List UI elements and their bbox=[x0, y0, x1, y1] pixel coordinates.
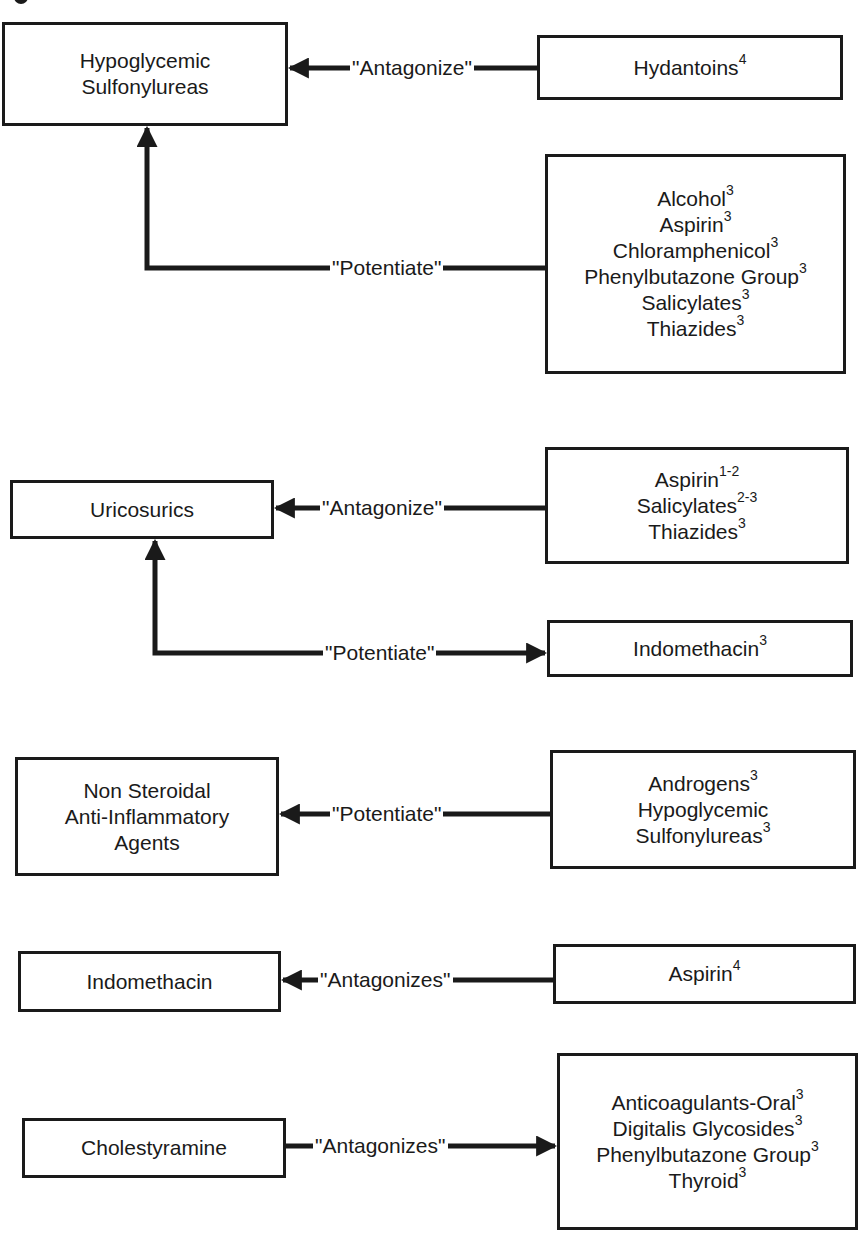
drug-item: Digitalis Glycosides3 bbox=[613, 1116, 803, 1142]
reference-number: 3 bbox=[737, 312, 745, 328]
source-box-aspirin-ref4[interactable]: Aspirin4 bbox=[553, 944, 856, 1004]
source-box-potentiators-nsaids[interactable]: Androgens3 Hypoglycemic Sulfonylureas3 bbox=[550, 750, 856, 869]
relation-label-antagonize: "Antagonize" bbox=[320, 496, 444, 520]
target-label-line: Non Steroidal bbox=[83, 778, 210, 804]
relation-label-potentiate: "Potentiate" bbox=[330, 256, 443, 280]
drug-item: Thyroid3 bbox=[669, 1168, 747, 1194]
target-box-nsaids[interactable]: Non Steroidal Anti-Inflammatory Agents bbox=[15, 757, 279, 876]
arrow-potentiate-1 bbox=[147, 128, 545, 268]
source-box-hydantoins[interactable]: Hydantoins4 bbox=[537, 35, 843, 100]
reference-number: 3 bbox=[796, 1086, 804, 1102]
drug-item: Phenylbutazone Group3 bbox=[584, 264, 807, 290]
reference-number: 4 bbox=[739, 51, 747, 67]
relation-label-potentiate: "Potentiate" bbox=[330, 802, 443, 826]
drug-item: Hypoglycemic bbox=[638, 797, 769, 823]
reference-number: 3 bbox=[726, 182, 734, 198]
relation-label-antagonizes: "Antagonizes" bbox=[318, 968, 453, 992]
source-box-antagonists-uricosurics[interactable]: Aspirin1-2 Salicylates2-3 Thiazides3 bbox=[545, 447, 849, 564]
target-label-line: Uricosurics bbox=[90, 497, 194, 523]
reference-number: 4 bbox=[733, 957, 741, 973]
reference-number: 3 bbox=[770, 234, 778, 250]
reference-number: 3 bbox=[724, 208, 732, 224]
target-label-line: Agents bbox=[114, 830, 179, 856]
drug-item: Aspirin1-2 bbox=[655, 467, 739, 493]
target-box-indomethacin[interactable]: Indomethacin bbox=[18, 951, 281, 1012]
drug-item: Anticoagulants-Oral3 bbox=[611, 1090, 803, 1116]
drug-item: Thiazides3 bbox=[647, 316, 745, 342]
relation-label-antagonizes: "Antagonizes" bbox=[313, 1134, 448, 1158]
drug-item: Alcohol3 bbox=[657, 186, 734, 212]
relation-label-potentiate: "Potentiate" bbox=[323, 641, 436, 665]
drug-item: Sulfonylureas3 bbox=[635, 823, 770, 849]
drug-item: Thiazides3 bbox=[648, 519, 746, 545]
target-label-line: Hypoglycemic bbox=[80, 48, 211, 74]
drug-item: Aspirin4 bbox=[669, 961, 741, 987]
reference-number: 3 bbox=[742, 286, 750, 302]
drug-item: Phenylbutazone Group3 bbox=[596, 1142, 819, 1168]
drug-item: Aspirin3 bbox=[660, 212, 732, 238]
source-box-indomethacin-ref3[interactable]: Indomethacin3 bbox=[547, 620, 853, 677]
drug-item: Indomethacin3 bbox=[633, 636, 767, 662]
reference-number: 3 bbox=[739, 1164, 747, 1180]
reference-number: 2-3 bbox=[737, 489, 757, 505]
target-label-line: Anti-Inflammatory bbox=[65, 804, 230, 830]
target-label-line: Indomethacin bbox=[86, 969, 212, 995]
target-box-cholestyramine[interactable]: Cholestyramine bbox=[22, 1118, 286, 1178]
relation-label-antagonize: "Antagonize" bbox=[350, 56, 474, 80]
reference-number: 3 bbox=[763, 819, 771, 835]
drug-item: Chloramphenicol3 bbox=[613, 238, 778, 264]
drug-item: Hydantoins4 bbox=[634, 55, 747, 81]
source-box-potentiators-sulfonylureas[interactable]: Alcohol3 Aspirin3 Chloramphenicol3 Pheny… bbox=[545, 154, 846, 374]
reference-number: 1-2 bbox=[719, 463, 739, 479]
drug-item: Salicylates3 bbox=[641, 290, 749, 316]
drug-item: Androgens3 bbox=[648, 771, 757, 797]
reference-number: 3 bbox=[738, 515, 746, 531]
target-box-hypoglycemic-sulfonylureas[interactable]: Hypoglycemic Sulfonylureas bbox=[2, 22, 288, 126]
reference-number: 3 bbox=[799, 260, 807, 276]
reference-number: 3 bbox=[759, 632, 767, 648]
reference-number: 3 bbox=[795, 1112, 803, 1128]
target-label-line: Cholestyramine bbox=[81, 1135, 227, 1161]
source-box-antagonized-by-cholestyramine[interactable]: Anticoagulants-Oral3 Digitalis Glycoside… bbox=[557, 1053, 858, 1230]
reference-number: 3 bbox=[750, 767, 758, 783]
target-label-line: Sulfonylureas bbox=[81, 74, 208, 100]
target-box-uricosurics[interactable]: Uricosurics bbox=[10, 480, 274, 539]
reference-number: 3 bbox=[811, 1138, 819, 1154]
arrow-potentiate-2 bbox=[155, 541, 545, 653]
